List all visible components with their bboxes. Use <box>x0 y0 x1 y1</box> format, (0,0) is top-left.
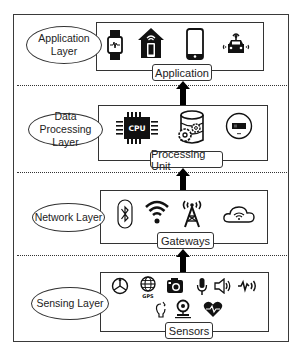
arrow-up-icon <box>176 81 190 105</box>
gateways-label: Gateways <box>157 232 214 249</box>
microphone-icon <box>196 277 208 296</box>
layer-separator <box>17 172 287 173</box>
pressure-sensor-icon <box>175 299 191 319</box>
smartwatch-icon <box>107 30 123 60</box>
light-bulb-icon <box>155 301 167 319</box>
data-processing-layer-ellipse: Data Processing Layer <box>28 113 103 146</box>
speaker-icon <box>214 278 232 294</box>
layer-name: Sensing Layer <box>36 297 103 310</box>
storage-card-icon <box>225 112 253 140</box>
arrow-up-icon <box>176 168 190 190</box>
smartphone-icon <box>186 28 204 60</box>
cpu-icon: CPU <box>115 112 159 144</box>
bluetooth-icon <box>117 199 133 229</box>
sensing-layer-ellipse: Sensing Layer <box>31 287 109 320</box>
gps-icon: GPS <box>139 276 157 298</box>
cell-tower-icon <box>180 198 204 228</box>
wifi-icon <box>145 199 169 225</box>
network-layer-ellipse: Network Layer <box>32 203 105 232</box>
application-layer-ellipse: Application Layer <box>26 26 102 64</box>
gyroscope-icon <box>111 277 129 295</box>
svg-text:CPU: CPU <box>128 124 145 133</box>
layer-separator <box>17 255 287 256</box>
layer-name: Network Layer <box>35 211 103 224</box>
layer-name-line1: Application <box>38 32 89 45</box>
sensors-label: Sensors <box>165 322 213 339</box>
vibration-icon <box>238 279 258 293</box>
arrow-up-icon <box>176 249 190 273</box>
database-gear-icon <box>176 110 206 146</box>
svg-text:GPS: GPS <box>142 293 154 299</box>
layer-name-line2: Layer <box>38 45 89 58</box>
connected-car-icon <box>220 30 252 56</box>
layer-separator <box>17 85 287 86</box>
heart-rate-icon <box>203 301 223 318</box>
cloud-wifi-icon <box>222 204 256 224</box>
processing-unit-label: Processing Unit <box>150 151 223 168</box>
layer-name-line2: Layer <box>29 136 102 149</box>
camera-icon <box>166 277 184 294</box>
layer-name-line1: Data Processing <box>29 110 102 136</box>
application-label: Application <box>152 64 212 81</box>
smart-home-icon <box>137 27 165 59</box>
